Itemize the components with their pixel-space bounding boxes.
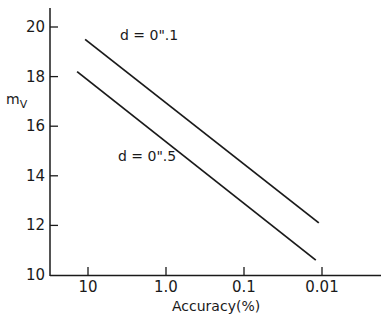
- y-tick-label: 12: [26, 216, 45, 234]
- x-axis-label: Accuracy(%): [172, 298, 260, 314]
- series-line-1: [77, 72, 316, 261]
- y-tick-label: 14: [26, 167, 45, 185]
- x-axis: 101.00.10.01: [50, 267, 381, 296]
- y-tick-label: 16: [26, 117, 45, 135]
- chart: 101214161820 101.00.10.01 d = 0".1 d = 0…: [0, 0, 389, 324]
- annotation-d-0-1: d = 0".1: [120, 27, 178, 43]
- x-tick-label: 0.01: [305, 278, 338, 296]
- y-tick-label: 10: [26, 266, 45, 284]
- y-axis: 101214161820: [26, 8, 58, 284]
- x-tick-label: 1.0: [154, 278, 178, 296]
- annotation-d-0-5: d = 0".5: [118, 148, 176, 164]
- series-lines: [77, 39, 319, 260]
- y-tick-label: 20: [26, 18, 45, 36]
- y-axis-label: mV: [6, 91, 28, 111]
- x-tick-label: 0.1: [232, 278, 256, 296]
- y-tick-label: 18: [26, 68, 45, 86]
- x-tick-label: 10: [78, 278, 97, 296]
- series-line-0: [85, 39, 319, 223]
